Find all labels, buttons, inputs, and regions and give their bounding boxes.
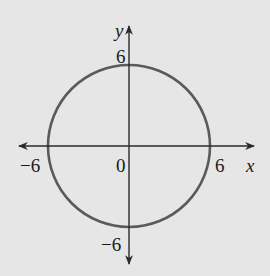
x-tick-negative: −6 (20, 155, 40, 176)
x-tick-positive: 6 (215, 155, 225, 176)
y-tick-negative: −6 (101, 234, 121, 255)
y-tick-positive: 6 (116, 46, 126, 67)
x-axis-label: x (245, 155, 255, 176)
circle-graph: y 6 −6 0 6 x −6 (0, 0, 270, 276)
graph-svg: y 6 −6 0 6 x −6 (0, 0, 270, 276)
origin-label: 0 (116, 155, 126, 176)
y-axis-label: y (113, 20, 124, 41)
